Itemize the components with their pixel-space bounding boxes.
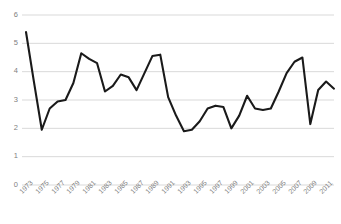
y-tick-label: 3 bbox=[2, 96, 18, 104]
y-tick-label: 6 bbox=[2, 11, 18, 19]
series-line bbox=[26, 32, 334, 131]
y-tick-label: 2 bbox=[2, 124, 18, 132]
line-chart: 0123456 19731975197719791981198319851987… bbox=[0, 0, 341, 224]
caption-strip bbox=[0, 218, 341, 224]
y-tick-label: 0 bbox=[2, 181, 18, 189]
gridlines bbox=[22, 15, 334, 185]
y-tick-label: 1 bbox=[2, 152, 18, 160]
y-tick-label: 4 bbox=[2, 67, 18, 75]
y-tick-label: 5 bbox=[2, 39, 18, 47]
